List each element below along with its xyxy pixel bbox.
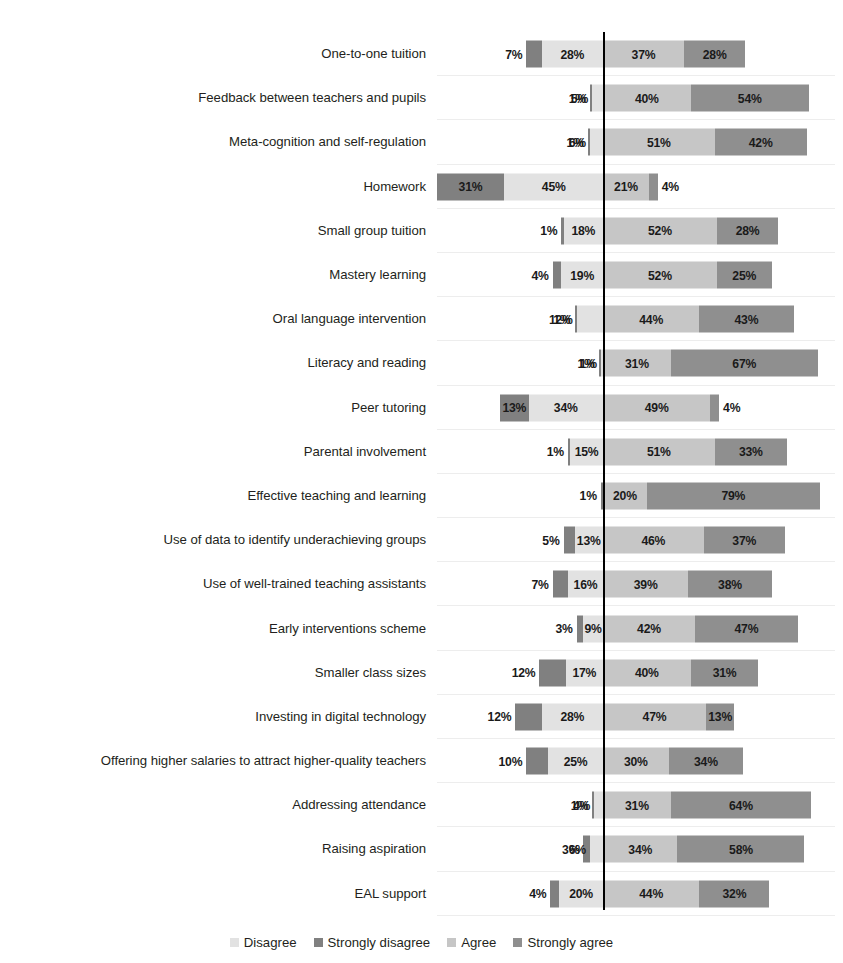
bar-track: 1%1%31%67%: [0, 350, 843, 377]
value-label-strongly-disagree: 3%: [517, 622, 573, 636]
value-label-strongly-agree: 42%: [715, 135, 807, 149]
bar-row: Parental involvement1%15%51%33%: [0, 430, 843, 474]
value-label-agree: 30%: [603, 754, 669, 768]
value-label-agree: 42%: [603, 622, 695, 636]
value-label-strongly-disagree: 4%: [493, 268, 549, 282]
value-label-agree: 47%: [603, 710, 706, 724]
bar-track: 10%25%30%34%: [0, 748, 843, 775]
value-label-strongly-agree: 38%: [688, 577, 771, 591]
legend-swatch-icon: [230, 938, 239, 947]
bar-track: 12%17%40%31%: [0, 659, 843, 686]
bar-track: 1%15%51%33%: [0, 438, 843, 465]
bar-row: Addressing attendance1%4%31%64%: [0, 783, 843, 827]
value-label-disagree: 45%: [504, 180, 603, 194]
value-label-strongly-disagree: 1%: [501, 224, 557, 238]
legend-item[interactable]: Strongly agree: [513, 936, 613, 949]
value-label-strongly-agree: 25%: [717, 268, 772, 282]
bar-rows: One-to-one tuition7%28%37%28%Feedback be…: [0, 32, 843, 916]
value-label-strongly-disagree: 7%: [493, 577, 549, 591]
bar-track: 1%5%40%54%: [0, 85, 843, 112]
value-label-disagree: 18%: [564, 224, 603, 238]
segment-strongly-disagree: [553, 262, 562, 289]
value-label-agree: 51%: [603, 445, 715, 459]
value-label-strongly-agree: 34%: [669, 754, 743, 768]
bar-track: 4%20%44%32%: [0, 880, 843, 907]
segment-strongly-disagree: [550, 880, 559, 907]
value-label-agree: 46%: [603, 533, 704, 547]
legend-item[interactable]: Agree: [447, 936, 496, 949]
value-label-disagree: 6%: [530, 842, 586, 856]
bar-row: Raising aspiration3%6%34%58%: [0, 827, 843, 871]
bar-track: 4%19%52%25%: [0, 262, 843, 289]
value-label-strongly-agree: 37%: [704, 533, 785, 547]
value-label-disagree: 1%: [541, 356, 597, 370]
bar-row: Peer tutoring13%34%49%4%: [0, 386, 843, 430]
value-label-strongly-agree: 54%: [691, 91, 809, 105]
value-label-disagree: 34%: [529, 401, 603, 415]
value-label-strongly-agree: 4%: [723, 401, 779, 415]
bar-row: Use of well-trained teaching assistants7…: [0, 562, 843, 606]
value-label-strongly-disagree: 31%: [437, 180, 505, 194]
value-label-agree: 37%: [603, 47, 684, 61]
bar-row: Meta-cognition and self-regulation1%6%51…: [0, 120, 843, 164]
value-label-strongly-agree: 32%: [699, 887, 769, 901]
segment-strongly-agree: [649, 173, 658, 200]
value-label-agree: 31%: [603, 798, 671, 812]
value-label-agree: 34%: [603, 842, 677, 856]
segment-strongly-disagree: [539, 659, 565, 686]
bar-track: 5%13%46%37%: [0, 527, 843, 554]
value-label-strongly-agree: 28%: [717, 224, 778, 238]
bar-track: 7%16%39%38%: [0, 571, 843, 598]
value-label-agree: 20%: [603, 489, 647, 503]
bar-track: 31%45%21%4%: [0, 173, 843, 200]
segment-strongly-disagree: [526, 41, 541, 68]
bar-row: Investing in digital technology12%28%47%…: [0, 695, 843, 739]
value-label-strongly-agree: 31%: [691, 666, 759, 680]
bar-row: Literacy and reading1%1%31%67%: [0, 341, 843, 385]
value-label-strongly-agree: 13%: [706, 710, 734, 724]
value-label-disagree: 5%: [532, 91, 588, 105]
value-label-agree: 51%: [603, 135, 715, 149]
bar-track: 3%9%42%47%: [0, 615, 843, 642]
value-label-strongly-disagree: 12%: [455, 710, 511, 724]
segment-disagree: [594, 792, 603, 819]
diverging-stacked-bar-chart: One-to-one tuition7%28%37%28%Feedback be…: [0, 0, 843, 963]
value-label-agree: 21%: [603, 180, 649, 194]
value-label-agree: 31%: [603, 356, 671, 370]
value-label-disagree: 20%: [559, 887, 603, 901]
value-label-disagree: 25%: [548, 754, 603, 768]
chart-title: [0, 0, 843, 5]
value-label-strongly-agree: 58%: [677, 842, 804, 856]
zero-axis-line: [603, 32, 605, 910]
bar-row: Effective teaching and learning1%20%79%: [0, 474, 843, 518]
value-label-strongly-agree: 28%: [684, 47, 745, 61]
value-label-disagree: 13%: [575, 533, 603, 547]
gridline: [437, 915, 835, 916]
value-label-disagree: 19%: [561, 268, 603, 282]
value-label-agree: 49%: [603, 401, 710, 415]
value-label-agree: 44%: [603, 312, 699, 326]
bar-track: 1%20%79%: [0, 482, 843, 509]
bar-track: 7%28%37%28%: [0, 41, 843, 68]
bar-row: One-to-one tuition7%28%37%28%: [0, 32, 843, 76]
bar-track: 1%6%51%42%: [0, 129, 843, 156]
bar-row: Use of data to identify underachieving g…: [0, 518, 843, 562]
value-label-strongly-disagree: 7%: [466, 47, 522, 61]
value-label-strongly-agree: 33%: [715, 445, 787, 459]
legend-label: Strongly agree: [527, 936, 613, 949]
value-label-strongly-disagree: 5%: [504, 533, 560, 547]
value-label-agree: 52%: [603, 224, 717, 238]
bar-row: Offering higher salaries to attract high…: [0, 739, 843, 783]
plot-area: One-to-one tuition7%28%37%28%Feedback be…: [0, 32, 843, 916]
bar-row: Homework31%45%21%4%: [0, 165, 843, 209]
legend-item[interactable]: Disagree: [230, 936, 297, 949]
segment-disagree: [590, 836, 603, 863]
value-label-strongly-disagree: 1%: [541, 489, 597, 503]
value-label-disagree: 17%: [566, 666, 603, 680]
value-label-agree: 39%: [603, 577, 688, 591]
bar-track: 1%18%52%28%: [0, 217, 843, 244]
legend-item[interactable]: Strongly disagree: [314, 936, 431, 949]
bar-track: 1%4%31%64%: [0, 792, 843, 819]
value-label-agree: 52%: [603, 268, 717, 282]
legend-swatch-icon: [447, 938, 456, 947]
